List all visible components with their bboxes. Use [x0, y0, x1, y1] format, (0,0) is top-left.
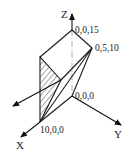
coordinate-diagram: Z Y X 0,0,15 0,5,10 0,0,0 10,0,0 — [0, 0, 139, 162]
point-label-yz: 0,5,10 — [95, 43, 119, 53]
x-axis-label: X — [16, 139, 24, 151]
point-label-x: 10,0,0 — [40, 125, 64, 135]
point-label-z-top: 0,0,15 — [75, 25, 99, 35]
z-axis-label: Z — [61, 8, 68, 20]
edge-diagonal — [61, 48, 92, 80]
edge-top-left — [40, 30, 72, 57]
point-label-origin: 0,0,0 — [75, 91, 94, 101]
y-axis-label: Y — [114, 128, 122, 140]
x-axis — [21, 122, 40, 137]
